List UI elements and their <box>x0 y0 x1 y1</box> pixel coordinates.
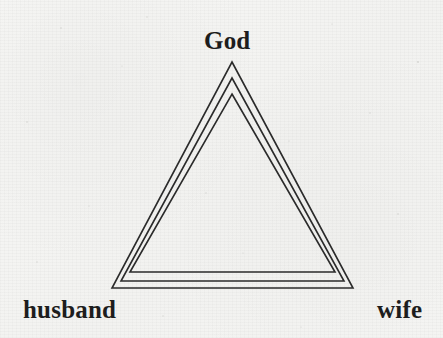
vertex-label-wife: wife <box>377 297 422 323</box>
diagram-canvas: God husband wife <box>0 0 443 338</box>
triangle-outline-middle <box>121 78 344 281</box>
vertex-label-husband: husband <box>23 297 116 323</box>
triangle-outline-inner <box>130 94 335 272</box>
vertex-label-god: God <box>204 28 250 54</box>
